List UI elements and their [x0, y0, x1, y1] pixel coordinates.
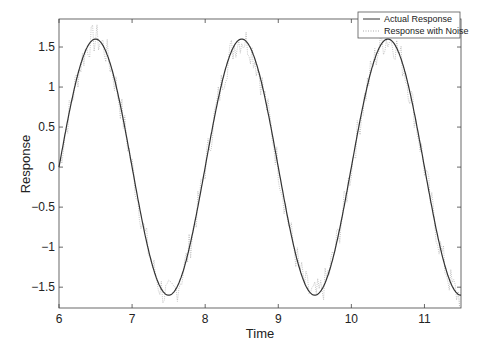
plot-frame: [59, 19, 461, 308]
y-tick-label: 0: [48, 160, 55, 174]
x-tick-label: 9: [275, 312, 282, 326]
x-tick-label: 7: [129, 312, 136, 326]
legend-item-actual: Actual Response: [384, 14, 452, 24]
y-axis-label: Response: [18, 135, 33, 194]
x-tick-label: 10: [345, 312, 359, 326]
line-chart: 67891011−1.5−1−0.500.511.5 Time Response…: [0, 0, 481, 346]
y-tick-label: 1.5: [38, 40, 55, 54]
y-tick-label: −1: [41, 240, 55, 254]
legend-item-noise: Response with Noise: [384, 26, 469, 36]
x-axis-label: Time: [246, 326, 274, 341]
x-tick-label: 6: [56, 312, 63, 326]
y-tick-label: 0.5: [38, 120, 55, 134]
x-tick-label: 8: [202, 312, 209, 326]
y-tick-label: −1.5: [31, 280, 55, 294]
plot-area: 67891011−1.5−1−0.500.511.5: [31, 19, 461, 326]
series-actual: [59, 39, 461, 295]
legend: Actual Response Response with Noise: [358, 12, 469, 38]
x-tick-label: 11: [418, 312, 431, 326]
y-tick-label: 1: [48, 80, 55, 94]
y-tick-label: −0.5: [31, 200, 55, 214]
series-noise: [59, 25, 461, 307]
